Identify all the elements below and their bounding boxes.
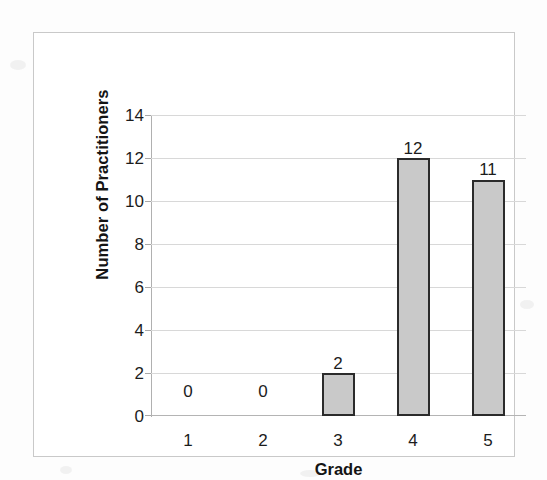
x-tick-label-4: 4 [390,431,436,451]
y-tick-label: 12 [114,150,144,167]
gridline [151,244,526,245]
x-tick-label-5: 5 [465,431,511,451]
y-axis-title: Number of Practitioners [93,55,112,315]
x-tick-label-1: 1 [165,431,211,451]
y-tick-mark [145,158,151,159]
y-tick-label: 8 [114,236,144,253]
y-tick-label: 14 [114,107,144,124]
bar-grade-3 [322,373,355,416]
y-tick-mark [145,287,151,288]
value-label-grade-4: 12 [390,140,436,157]
chart-frame: Number of Practitioners 14 12 10 8 6 4 2… [33,32,515,457]
x-tick-label-2: 2 [240,431,286,451]
value-label-grade-1: 0 [165,383,211,400]
y-tick-mark [145,415,151,416]
scan-artifact [60,466,72,474]
y-tick-mark [145,244,151,245]
y-axis-tick-labels: 14 12 10 8 6 4 2 0 [110,115,144,416]
gridline [151,115,526,116]
bar-grade-5 [472,180,505,417]
value-label-grade-3: 2 [315,355,361,372]
y-tick-mark [145,373,151,374]
x-axis-title: Grade [151,460,526,479]
y-tick-mark [145,115,151,116]
y-tick-label: 6 [114,279,144,296]
y-tick-label: 10 [114,193,144,210]
bar-grade-4 [397,158,430,416]
y-tick-mark [145,201,151,202]
value-label-grade-2: 0 [240,383,286,400]
y-tick-label: 2 [114,365,144,382]
gridline [151,158,526,159]
x-tick-label-3: 3 [315,431,361,451]
y-tick-label: 0 [114,408,144,425]
gridline [151,201,526,202]
plot-area: 0 0 2 12 11 [151,115,526,416]
gridline [151,330,526,331]
scan-artifact [10,60,26,70]
scanned-page-background: Number of Practitioners 14 12 10 8 6 4 2… [0,0,547,480]
y-tick-label: 4 [114,322,144,339]
value-label-grade-5: 11 [465,161,511,178]
x-axis-tick-labels: 1 2 3 4 5 [151,431,526,455]
gridline [151,287,526,288]
y-tick-mark [145,330,151,331]
